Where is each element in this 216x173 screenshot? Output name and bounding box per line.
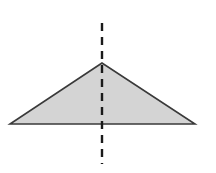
symmetry-diagram [0, 0, 216, 173]
